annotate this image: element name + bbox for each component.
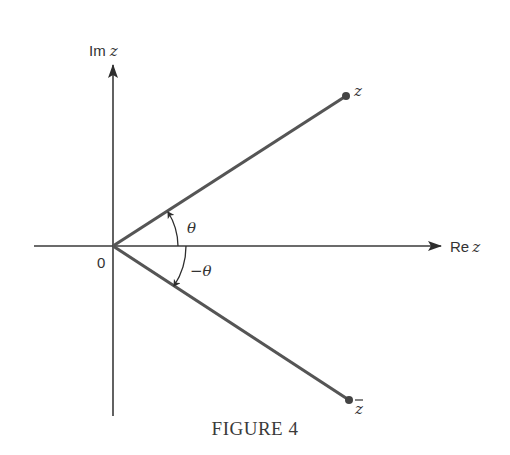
point-z: [342, 92, 350, 100]
point-z-label: z: [353, 82, 362, 100]
vector-z: [113, 92, 350, 246]
imag-axis-label: Imz: [89, 42, 118, 60]
point-zbar: [345, 396, 353, 404]
svg-text:z: z: [354, 400, 363, 418]
real-axis-label: Rez: [450, 238, 480, 256]
origin-label: 0: [97, 254, 105, 271]
angle-arc-theta: [168, 212, 178, 246]
figure-caption: FIGURE 4: [0, 418, 510, 440]
vector-zbar: [113, 246, 353, 404]
theta-label: θ: [187, 219, 196, 237]
angle-arc-neg-theta: [174, 246, 186, 286]
neg-theta-label: −θ: [190, 262, 212, 280]
complex-plane-diagram: Imz Rez 0 z z θ −θ: [0, 0, 510, 455]
point-zbar-label: z: [354, 400, 363, 418]
